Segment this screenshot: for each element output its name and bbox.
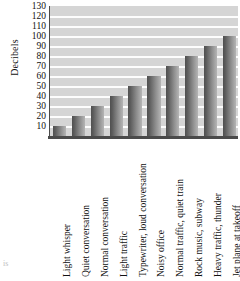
y-tick-label: 90 xyxy=(37,42,47,51)
bar xyxy=(110,96,123,136)
plot-area xyxy=(49,6,238,136)
bar xyxy=(91,106,104,136)
y-axis-title: Decibels xyxy=(9,23,20,93)
bar xyxy=(166,66,179,136)
y-tick-label: 20 xyxy=(37,112,47,121)
y-tick-label: 40 xyxy=(37,92,47,101)
x-tick-label: Heavy traffic, thunder xyxy=(213,193,223,277)
y-tick-label: 10 xyxy=(37,122,47,131)
page-text-fragment: is xyxy=(3,259,8,268)
bar xyxy=(128,86,141,136)
x-tick-label: Rock music, subway xyxy=(194,198,204,277)
x-tick-label: Noisy office xyxy=(156,230,166,277)
y-tick-label: 80 xyxy=(37,52,47,61)
y-tick-label: 70 xyxy=(37,62,47,71)
x-tick-label: Jet plane at takeoff xyxy=(232,205,240,277)
y-tick-label: 30 xyxy=(37,102,47,111)
x-tick-label: Quiet conversation xyxy=(81,205,91,277)
y-tick-label: 50 xyxy=(37,82,47,91)
x-tick-label: Normal conversation xyxy=(100,197,110,277)
bars-layer xyxy=(50,6,238,136)
bar xyxy=(223,36,236,136)
y-tick-label: 60 xyxy=(37,72,47,81)
y-axis-tick-labels: 102030405060708090100110120130 xyxy=(22,3,46,137)
y-tick-label: 130 xyxy=(32,2,46,11)
bar xyxy=(204,46,217,136)
x-axis-category-labels: Light whisperQuiet conversationNormal co… xyxy=(49,139,238,279)
bar xyxy=(72,116,85,136)
bar xyxy=(185,56,198,136)
decibels-bar-chart: Decibels 102030405060708090100110120130 … xyxy=(0,0,240,281)
x-tick-label: Typewriter, loud conversation xyxy=(138,163,148,277)
x-tick-label: Light whisper xyxy=(62,224,72,277)
y-tick-label: 110 xyxy=(32,22,46,31)
bar xyxy=(147,76,160,136)
y-tick-label: 100 xyxy=(32,32,46,41)
x-tick-label: Light traffic xyxy=(119,231,129,277)
y-tick-label: 120 xyxy=(32,12,46,21)
x-tick-label: Normal traffic, quiet train xyxy=(175,179,185,277)
bar xyxy=(53,126,66,136)
